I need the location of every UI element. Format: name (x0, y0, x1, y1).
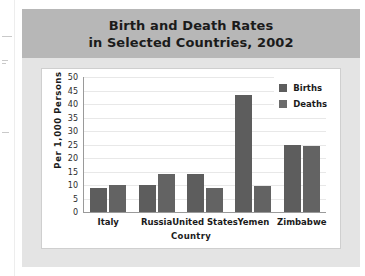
bar-yemen-deaths (254, 186, 271, 212)
chart-title-line-2: in Selected Countries, 2002 (88, 34, 293, 51)
bar-russia-births (139, 185, 156, 212)
bar-italy-deaths (109, 185, 126, 212)
page-margin-artifacts (0, 0, 22, 276)
bar-russia-deaths (158, 174, 175, 212)
chart-title-banner: Birth and Death Rates in Selected Countr… (22, 9, 360, 58)
y-tick-label: 45 (56, 86, 78, 95)
y-tick-label: 15 (56, 167, 78, 176)
x-tick-label: Zimbabwe (277, 217, 326, 227)
chart-figure: Birth and Death Rates in Selected Countr… (22, 9, 360, 267)
y-tick-label: 35 (56, 113, 78, 122)
bar-zimbabwe-births (284, 145, 301, 213)
scan-mark (2, 63, 6, 64)
bar-yemen-births (235, 95, 252, 212)
bar-italy-births (90, 188, 107, 212)
y-tick-label: 25 (56, 140, 78, 149)
bar-united-states-deaths (206, 188, 223, 212)
y-tick-label: 0 (56, 208, 78, 217)
y-tick-label: 40 (56, 100, 78, 109)
scan-mark (2, 60, 8, 61)
x-tick-label: Italy (97, 217, 118, 227)
x-tick-label: Russia (141, 217, 172, 227)
legend-item-births: Births (279, 80, 327, 96)
y-tick-label: 50 (56, 73, 78, 82)
y-tick-label: 20 (56, 154, 78, 163)
plot-area: Per 1,000 Persons 50454035302520151050 I… (42, 69, 340, 248)
legend-item-deaths: Deaths (279, 96, 327, 112)
chart-panel: Per 1,000 Persons 50454035302520151050 I… (41, 68, 341, 249)
bar-zimbabwe-deaths (303, 146, 320, 212)
scan-mark (2, 36, 12, 37)
scan-mark (2, 132, 9, 133)
x-axis-line (83, 212, 326, 213)
legend-swatch-deaths (279, 100, 287, 108)
y-tick-label: 5 (56, 194, 78, 203)
legend-swatch-births (279, 84, 287, 92)
legend-label-deaths: Deaths (293, 99, 327, 109)
bar-united-states-births (187, 174, 204, 212)
page-edge-rule (14, 0, 15, 276)
chart-legend: Births Deaths (274, 76, 333, 116)
x-tick-label: United States (172, 217, 238, 227)
y-tick-label: 30 (56, 127, 78, 136)
x-tick-label: Yemen (237, 217, 269, 227)
x-axis-title: Country (42, 231, 340, 241)
chart-title-line-1: Birth and Death Rates (109, 17, 274, 34)
y-tick-label: 10 (56, 181, 78, 190)
legend-label-births: Births (293, 83, 322, 93)
